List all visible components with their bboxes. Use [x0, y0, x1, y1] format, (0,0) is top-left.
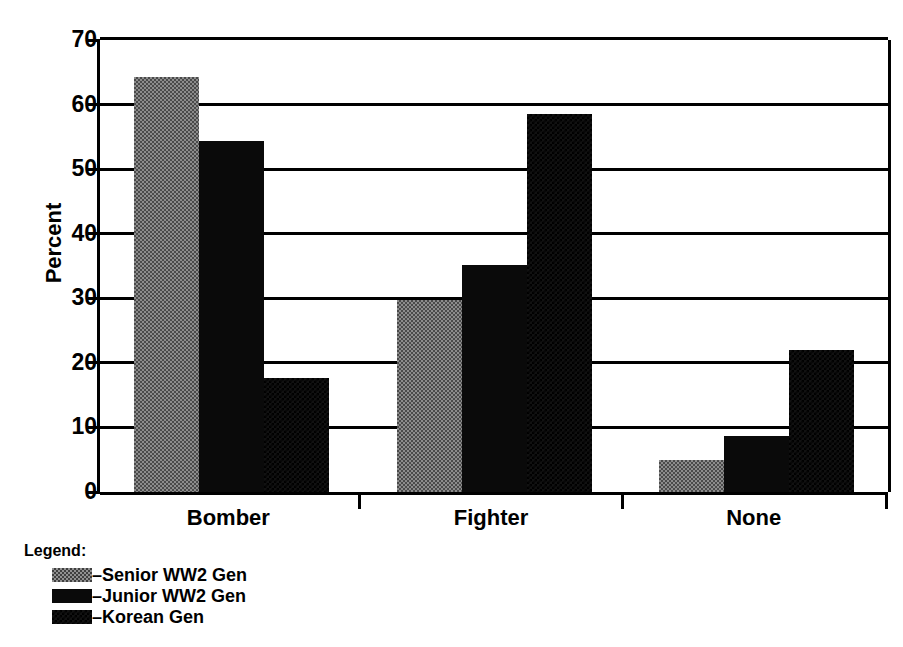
bar [659, 460, 724, 492]
legend-swatch-icon [52, 568, 92, 582]
legend-title: Legend: [24, 543, 384, 559]
x-axis-tick-mark [621, 495, 624, 509]
legend-swatch-icon [52, 610, 92, 624]
legend-item-label: –Junior WW2 Gen [92, 587, 246, 605]
x-axis-tick-mark [358, 495, 361, 509]
plot-area [97, 40, 891, 492]
legend-item: –Junior WW2 Gen [52, 585, 384, 606]
x-axis-category-label: Bomber [138, 505, 318, 531]
legend: Legend: –Senior WW2 Gen–Junior WW2 Gen–K… [24, 543, 384, 627]
bar-chart-figure: Percent 010203040506070 BomberFighterNon… [0, 0, 903, 647]
x-axis-line [100, 492, 888, 495]
bar [462, 265, 527, 492]
bar [789, 350, 854, 492]
x-axis-category-label: None [664, 505, 844, 531]
bar [397, 300, 462, 492]
bar [724, 436, 789, 492]
legend-rows: –Senior WW2 Gen–Junior WW2 Gen–Korean Ge… [24, 564, 384, 627]
bar [527, 114, 592, 492]
bars-layer [100, 40, 888, 492]
x-axis-category-label: Fighter [401, 505, 581, 531]
x-axis-tick-mark [885, 495, 888, 509]
legend-item-label: –Korean Gen [92, 608, 204, 626]
bar [134, 77, 199, 492]
legend-item-label: –Senior WW2 Gen [92, 566, 247, 584]
bar [264, 378, 329, 492]
bar [199, 141, 264, 492]
legend-item: –Korean Gen [52, 606, 384, 627]
legend-item: –Senior WW2 Gen [52, 564, 384, 585]
legend-swatch-icon [52, 589, 92, 603]
